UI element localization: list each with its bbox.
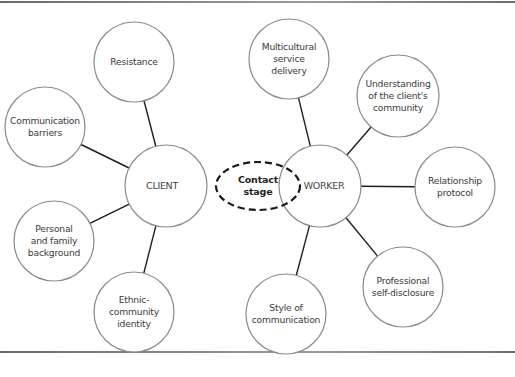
connector-client-ethnic-community-identity [144,226,156,274]
ethnic-community-identity-label: Ethnic-communityidentity [96,294,172,330]
contact-stage-label: Contactstage [220,174,296,198]
connector-client-personal-family-background [90,204,129,223]
connector-worker-understanding-clients-community [347,127,371,155]
style-of-communication-label: Style ofcommunication [248,302,324,326]
connector-worker-professional-self-disclosure [346,218,378,256]
connector-client-resistance [144,101,156,147]
professional-self-disclosure-label: Professionalself-disclosure [365,275,441,299]
communication-barriers-label: Communicationbarriers [7,115,83,139]
connector-worker-multicultural-service-delivery [299,98,311,146]
connector-client-communication-barriers [81,145,129,169]
resistance-label: Resistance [96,56,172,68]
connector-worker-style-of-communication [296,226,309,276]
personal-family-background-label: Personaland familybackground [16,223,92,259]
understanding-clients-community-label: Understandingof the client'scommunity [360,78,436,114]
multicultural-service-delivery-label: Multiculturalservicedelivery [251,41,327,77]
relationship-protocol-label: Relationshipprotocol [417,175,493,199]
client-label: CLIENT [124,180,200,192]
worker-label: WORKER [286,180,362,192]
